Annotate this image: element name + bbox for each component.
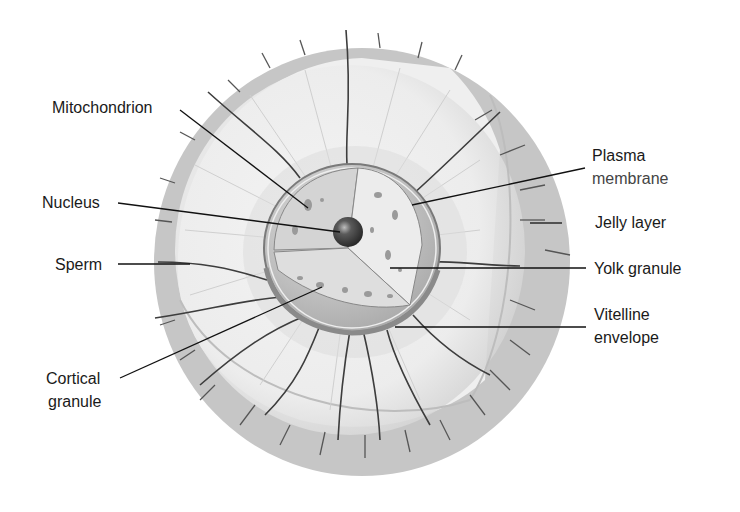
label-vitelline-line2: envelope (594, 328, 659, 347)
label-plasma-line1: Plasma (592, 146, 645, 165)
label-yolk-granule: Yolk granule (594, 259, 681, 278)
label-jelly-layer: Jelly layer (595, 213, 666, 232)
label-nucleus: Nucleus (42, 193, 100, 212)
egg-diagram: Mitochondrion Nucleus Sperm Cortical gra… (0, 0, 740, 512)
label-sperm: Sperm (55, 255, 102, 274)
label-cortical-line2: granule (48, 392, 101, 411)
label-plasma-line2: membrane (592, 169, 668, 188)
label-mitochondrion: Mitochondrion (52, 98, 153, 117)
label-vitelline-line1: Vitelline (594, 305, 650, 324)
egg-cell (264, 164, 440, 333)
label-cortical-line1: Cortical (46, 369, 100, 388)
egg-illustration (0, 0, 740, 512)
